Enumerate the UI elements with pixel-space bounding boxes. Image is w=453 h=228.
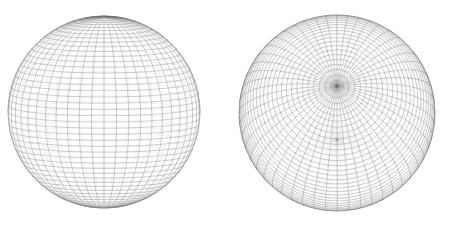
left-sphere	[8, 16, 200, 208]
right-sphere	[239, 15, 435, 211]
sphere-wireframe-figure	[0, 0, 453, 228]
figure-canvas	[0, 0, 453, 228]
